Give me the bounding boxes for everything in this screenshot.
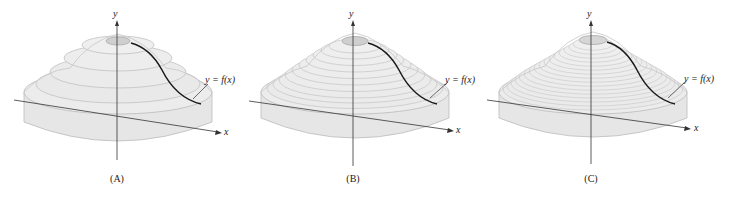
solid-of-revolution-b: [245, 0, 491, 197]
solid-of-revolution-c: [487, 0, 737, 197]
y-axis-label: y: [349, 8, 353, 19]
caption-b: (B): [333, 173, 373, 184]
solid-of-revolution-a: [0, 0, 246, 197]
x-axis-label: x: [694, 122, 698, 133]
y-axis-label: y: [113, 8, 117, 19]
caption-c: (C): [571, 173, 611, 184]
curve-label: y = f(x): [205, 74, 235, 85]
x-axis-label: x: [224, 126, 228, 137]
curve-label: y = f(x): [445, 74, 475, 85]
panel-b: y x y = f(x) (B): [245, 0, 491, 197]
x-axis-label: x: [456, 124, 460, 135]
y-axis-label: y: [587, 8, 591, 19]
panel-c: y x y = f(x) (C): [487, 0, 733, 197]
curve-label: y = f(x): [684, 73, 714, 84]
panel-a: y x y = f(x) (A): [0, 0, 246, 197]
caption-a: (A): [97, 173, 137, 184]
